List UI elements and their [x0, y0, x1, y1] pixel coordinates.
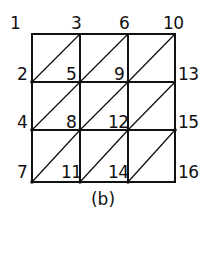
node-label-1: 1	[10, 15, 20, 32]
node-label-3: 3	[71, 15, 81, 32]
node-label-15: 15	[178, 114, 199, 131]
node-label-7: 7	[17, 164, 27, 181]
node-label-8: 8	[66, 114, 76, 131]
diagonal	[128, 130, 175, 182]
node-label-9: 9	[114, 66, 124, 83]
node-label-5: 5	[66, 66, 76, 83]
node-label-2: 2	[17, 66, 27, 83]
node-label-14: 14	[108, 164, 129, 181]
node-label-12: 12	[108, 114, 129, 131]
node-label-11: 11	[61, 164, 82, 181]
diagonal	[128, 82, 175, 130]
node-label-13: 13	[178, 66, 199, 83]
triangulated-grid	[0, 0, 206, 254]
diagonal	[128, 34, 175, 82]
node-label-6: 6	[119, 15, 129, 32]
node-label-10: 10	[163, 15, 184, 32]
node-label-4: 4	[17, 114, 27, 131]
node-label-16: 16	[178, 164, 199, 181]
figure-caption: (b)	[0, 189, 206, 209]
